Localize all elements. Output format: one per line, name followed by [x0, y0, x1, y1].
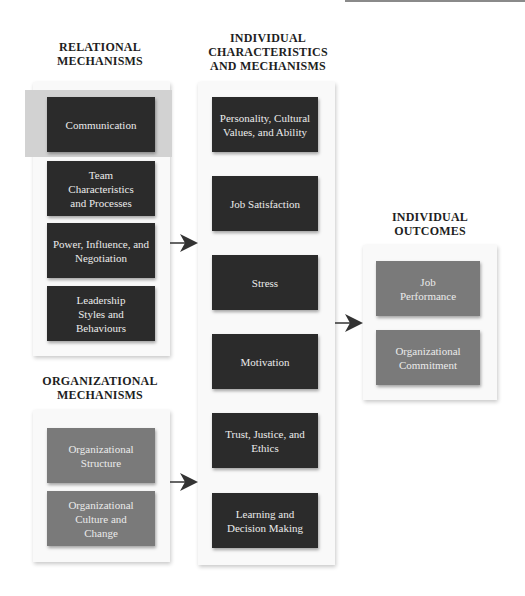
arrow-right-icon: [168, 232, 200, 254]
box-label: Motivation: [241, 355, 290, 369]
box-label: Organizational Structure: [61, 442, 141, 470]
heading-line: RELATIONAL: [25, 40, 175, 54]
heading-line: ORGANIZATIONAL: [25, 374, 175, 388]
heading-individual: INDIVIDUAL CHARACTERISTICS AND MECHANISM…: [193, 31, 343, 73]
box-label: Stress: [252, 276, 278, 290]
box-motivation: Motivation: [212, 334, 318, 389]
arrow-right-icon: [333, 312, 365, 334]
box-label: Power, Influence, and Negotiation: [51, 237, 151, 265]
box-stress: Stress: [212, 255, 318, 310]
box-label: Job Satisfaction: [230, 197, 300, 211]
box-label: Organizational Culture and Change: [61, 498, 141, 540]
box-label: Organizational Commitment: [380, 344, 476, 372]
heading-line: CHARACTERISTICS: [193, 45, 343, 59]
box-power-influence: Power, Influence, and Negotiation: [47, 223, 155, 278]
box-leadership: Leadership Styles and Behaviours: [47, 286, 155, 341]
box-org-commitment: Organizational Commitment: [376, 330, 480, 385]
box-learning-decision: Learning and Decision Making: [212, 493, 318, 548]
arrow-right-icon: [168, 471, 200, 493]
heading-line: MECHANISMS: [25, 54, 175, 68]
box-label: Communication: [66, 118, 137, 132]
heading-line: OUTCOMES: [355, 224, 505, 238]
heading-line: INDIVIDUAL: [355, 210, 505, 224]
box-label: Trust, Justice, and Ethics: [225, 427, 305, 455]
box-label: Personality, Cultural Values, and Abilit…: [216, 111, 314, 139]
heading-line: AND MECHANISMS: [193, 59, 343, 73]
box-job-performance: Job Performance: [376, 261, 480, 316]
box-label: Leadership Styles and Behaviours: [66, 293, 136, 335]
heading-line: INDIVIDUAL: [193, 31, 343, 45]
box-label: Job Performance: [393, 275, 463, 303]
heading-outcomes: INDIVIDUAL OUTCOMES: [355, 210, 505, 238]
heading-line: MECHANISMS: [25, 388, 175, 402]
box-communication: Communication: [47, 97, 155, 152]
box-org-culture: Organizational Culture and Change: [47, 491, 155, 546]
box-trust-justice: Trust, Justice, and Ethics: [212, 413, 318, 468]
top-rule: [345, 0, 525, 2]
box-personality: Personality, Cultural Values, and Abilit…: [212, 97, 318, 152]
heading-relational: RELATIONAL MECHANISMS: [25, 40, 175, 68]
box-label: Learning and Decision Making: [220, 507, 310, 535]
heading-organizational: ORGANIZATIONAL MECHANISMS: [25, 374, 175, 402]
box-team-characteristics: Team Characteristics and Processes: [47, 161, 155, 216]
box-label: Team Characteristics and Processes: [61, 168, 141, 210]
box-job-satisfaction: Job Satisfaction: [212, 176, 318, 231]
box-org-structure: Organizational Structure: [47, 428, 155, 483]
